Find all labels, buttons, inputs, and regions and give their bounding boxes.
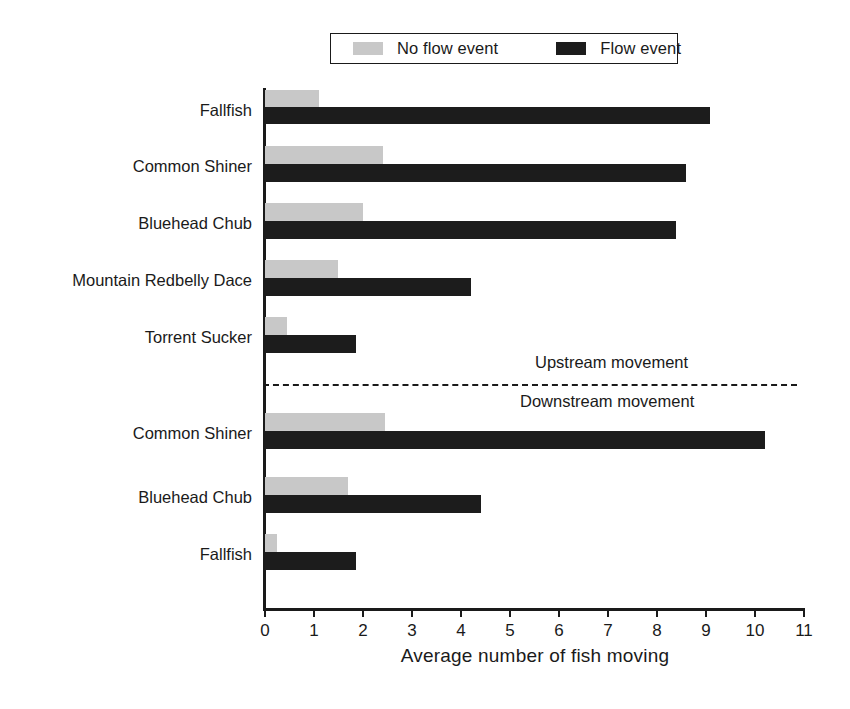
x-tick-label-0: 0 (245, 621, 285, 641)
x-tick-label-11: 11 (784, 621, 824, 641)
bar-no-flow-fallfish-downstream (265, 534, 277, 552)
x-tick-mark-3 (411, 608, 413, 617)
legend-item-flow-event: Flow event (556, 39, 681, 58)
y-label-common-shiner-upstream: Common Shiner (133, 157, 252, 176)
x-tick-mark-5 (509, 608, 511, 617)
x-tick-label-10: 10 (735, 621, 775, 641)
chart-legend: No flow event Flow event (330, 33, 678, 64)
x-tick-label-3: 3 (392, 621, 432, 641)
x-tick-label-7: 7 (588, 621, 628, 641)
x-axis-line (263, 608, 805, 611)
x-tick-mark-10 (754, 608, 756, 617)
x-tick-mark-8 (656, 608, 658, 617)
legend-label-flow-event: Flow event (600, 39, 681, 58)
bar-no-flow-bluehead-chub-downstream (265, 477, 348, 495)
x-tick-label-8: 8 (637, 621, 677, 641)
x-tick-mark-4 (460, 608, 462, 617)
bar-flow-bluehead-chub-upstream (265, 221, 676, 239)
bar-no-flow-mountain-redbelly-dace-upstream (265, 260, 338, 278)
x-axis-title: Average number of fish moving (265, 645, 805, 667)
x-tick-mark-7 (607, 608, 609, 617)
y-axis-category-labels: Fallfish Common Shiner Bluehead Chub Mou… (0, 0, 252, 709)
x-tick-label-9: 9 (686, 621, 726, 641)
bar-no-flow-torrent-sucker-upstream (265, 317, 287, 335)
x-tick-label-1: 1 (294, 621, 334, 641)
bar-no-flow-common-shiner-upstream (265, 146, 383, 164)
bar-flow-mountain-redbelly-dace-upstream (265, 278, 471, 296)
bar-flow-torrent-sucker-upstream (265, 335, 356, 353)
bar-no-flow-bluehead-chub-upstream (265, 203, 363, 221)
x-tick-label-4: 4 (441, 621, 481, 641)
bar-flow-bluehead-chub-downstream (265, 495, 481, 513)
bar-flow-fallfish-downstream (265, 552, 356, 570)
x-tick-mark-1 (313, 608, 315, 617)
annotation-downstream-movement: Downstream movement (520, 392, 694, 411)
legend-swatch-no-flow-event (353, 42, 383, 55)
y-label-common-shiner-downstream: Common Shiner (133, 424, 252, 443)
bar-no-flow-common-shiner-downstream (265, 413, 385, 431)
bar-flow-common-shiner-downstream (265, 431, 765, 449)
plot-area: Upstream movement Downstream movement 0 … (265, 88, 805, 608)
bar-flow-fallfish-upstream (265, 107, 710, 124)
y-label-fallfish-downstream: Fallfish (200, 545, 252, 564)
y-label-fallfish-upstream: Fallfish (200, 101, 252, 120)
legend-item-no-flow-event: No flow event (353, 39, 498, 58)
x-tick-label-2: 2 (343, 621, 383, 641)
x-tick-mark-2 (362, 608, 364, 617)
y-label-mountain-redbelly-dace-upstream: Mountain Redbelly Dace (72, 271, 252, 290)
y-label-torrent-sucker-upstream: Torrent Sucker (145, 328, 252, 347)
bar-no-flow-fallfish-upstream (265, 90, 319, 107)
x-tick-label-5: 5 (490, 621, 530, 641)
y-label-bluehead-chub-downstream: Bluehead Chub (138, 488, 252, 507)
legend-label-no-flow-event: No flow event (397, 39, 498, 58)
x-tick-mark-9 (705, 608, 707, 617)
annotation-upstream-movement: Upstream movement (535, 353, 688, 372)
x-tick-mark-0 (264, 608, 266, 617)
x-tick-label-6: 6 (539, 621, 579, 641)
x-tick-mark-6 (558, 608, 560, 617)
y-label-bluehead-chub-upstream: Bluehead Chub (138, 214, 252, 233)
x-tick-mark-11 (803, 608, 805, 617)
legend-swatch-flow-event (556, 42, 586, 55)
chart-figure: No flow event Flow event Fallfish Common… (0, 0, 850, 709)
bar-flow-common-shiner-upstream (265, 164, 686, 182)
movement-divider-line (263, 384, 797, 386)
